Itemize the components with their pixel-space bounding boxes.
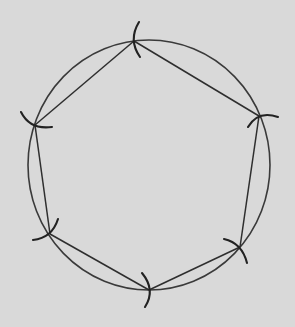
construction-diagram	[0, 0, 295, 327]
